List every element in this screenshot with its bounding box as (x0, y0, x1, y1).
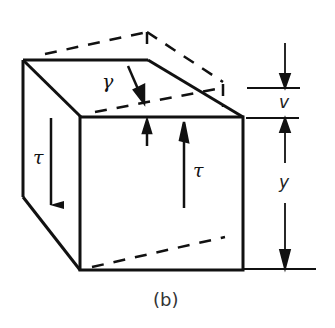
tau-left-label: τ (33, 148, 44, 167)
diagram-drawing (0, 0, 335, 328)
gamma-arrowhead (134, 85, 144, 103)
v-label: v (279, 94, 289, 111)
tau-right-label: τ (193, 161, 204, 180)
dimension-annotations (244, 43, 316, 269)
tau-right-arrowhead (180, 122, 188, 142)
shear-cube-diagram: γ τ τ v y (b) (0, 0, 335, 328)
y-label: y (279, 174, 289, 191)
shear-arrows (51, 66, 188, 208)
gamma-label: γ (102, 72, 113, 91)
figure-caption: (b) (153, 291, 178, 309)
cube-deformed-dashed-edges (45, 32, 225, 267)
small-up-arrowhead (143, 120, 151, 133)
